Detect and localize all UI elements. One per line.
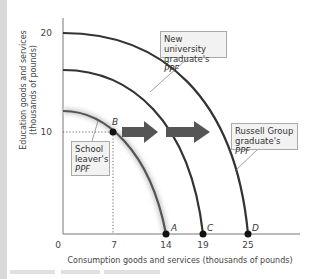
point-c-label: C (207, 223, 214, 233)
school-leaver-leader (92, 121, 98, 141)
x-tick-0: 0 (55, 240, 61, 250)
russell-group-label-ppf: PPF (235, 146, 250, 156)
point-b (110, 129, 117, 136)
shift-arrow-1-icon (122, 121, 158, 143)
x-tick-25: 25 (242, 240, 253, 250)
russell-group-label-line1: Russell Group (235, 126, 294, 136)
x-tick-19: 19 (197, 240, 209, 250)
point-d-label: D (252, 223, 259, 233)
point-d (245, 231, 252, 238)
y-tick-10: 10 (41, 127, 53, 137)
new-university-label-line2: graduate's (164, 54, 209, 64)
new-university-label-box: New university graduate's PPF (160, 31, 227, 58)
school-leaver-label-line2: leaver's (75, 154, 106, 164)
russell-group-label-box: Russell Group graduate's PPF (231, 123, 298, 150)
point-c (200, 231, 207, 238)
russell-group-label-line2: graduate's (235, 136, 280, 146)
school-leaver-label-box: School leaver's PPF (71, 141, 110, 176)
svg-text:Education goods and services: Education goods and services (19, 30, 28, 149)
point-a-label: A (170, 223, 177, 233)
school-leaver-label-ppf: PPF (75, 164, 90, 174)
new-university-label-ppf: PPF (164, 64, 179, 74)
x-tick-14: 14 (160, 240, 172, 250)
x-tick-7: 7 (111, 240, 117, 250)
point-a (163, 231, 170, 238)
point-b-label: B (112, 117, 118, 127)
new-university-label-line1: New university (164, 34, 223, 54)
shift-arrow-2-icon (166, 121, 210, 143)
svg-text:(thousands of pounds): (thousands of pounds) (29, 45, 38, 135)
y-axis-label: Education goods and services (thousands … (19, 30, 38, 149)
cropped-caption (10, 270, 160, 274)
x-axis-label: Consumption goods and services (thousand… (67, 256, 292, 265)
school-leaver-label-line1: School (75, 144, 106, 154)
y-tick-20: 20 (41, 28, 53, 38)
